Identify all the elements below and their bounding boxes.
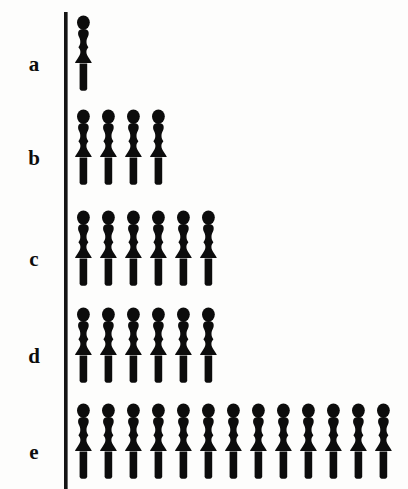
figure-group-c <box>71 209 221 293</box>
person-figure-icon <box>171 209 196 287</box>
chart-row: a <box>0 10 408 98</box>
person-figure-icon <box>71 108 96 186</box>
person-figure-icon <box>146 402 171 480</box>
person-figure-icon <box>96 402 121 480</box>
person-figure-icon <box>96 209 121 287</box>
figure-group-a <box>71 14 96 98</box>
person-figure-icon <box>121 306 146 384</box>
person-figure-icon <box>246 402 271 480</box>
person-figure-icon <box>196 306 221 384</box>
person-figure-icon <box>171 306 196 384</box>
figure-group-b <box>71 108 171 192</box>
person-figure-icon <box>171 402 196 480</box>
chart-row: b <box>0 104 408 192</box>
person-figure-icon <box>146 306 171 384</box>
person-figure-icon <box>196 209 221 287</box>
person-figure-icon <box>146 209 171 287</box>
figure-group-d <box>71 306 221 390</box>
person-figure-icon <box>296 402 321 480</box>
figure-group-e <box>71 402 396 486</box>
person-figure-icon <box>371 402 396 480</box>
chart-row: e <box>0 398 408 486</box>
person-figure-icon <box>121 108 146 186</box>
person-figure-icon <box>71 209 96 287</box>
person-figure-icon <box>146 108 171 186</box>
row-label-b: b <box>14 148 54 169</box>
person-figure-icon <box>96 306 121 384</box>
person-figure-icon <box>321 402 346 480</box>
person-figure-icon <box>196 402 221 480</box>
person-figure-icon <box>121 402 146 480</box>
person-figure-icon <box>121 209 146 287</box>
row-label-d: d <box>14 346 54 367</box>
person-figure-icon <box>96 108 121 186</box>
row-label-c: c <box>14 249 54 270</box>
chart-row: d <box>0 302 408 390</box>
person-figure-icon <box>346 402 371 480</box>
person-figure-icon <box>221 402 246 480</box>
person-figure-icon <box>71 402 96 480</box>
person-figure-icon <box>271 402 296 480</box>
pictogram-chart: a b c d e <box>0 0 408 489</box>
person-figure-icon <box>71 306 96 384</box>
person-figure-icon <box>71 14 96 92</box>
row-label-e: e <box>14 442 54 463</box>
chart-row: c <box>0 205 408 293</box>
row-label-a: a <box>14 54 54 75</box>
